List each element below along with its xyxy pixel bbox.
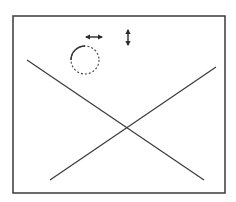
diagonal-line-descending [27,60,204,180]
diagram-frame [13,16,225,193]
diagonal-line-ascending [50,67,216,180]
circle-solid-arc [71,46,85,60]
line-diagram [0,0,236,202]
dashed-circle [71,46,99,74]
